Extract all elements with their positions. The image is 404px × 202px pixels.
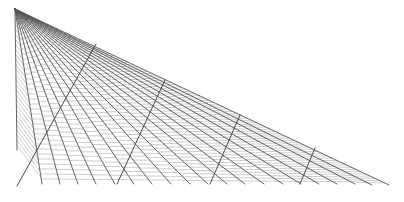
ray-fan-svg bbox=[0, 0, 404, 202]
ladder-rung bbox=[17, 135, 39, 165]
ladder-rung bbox=[16, 110, 34, 134]
fan-rays bbox=[15, 9, 389, 185]
ladder-rung bbox=[17, 140, 40, 172]
ladder-rung bbox=[16, 100, 32, 122]
ray-fan-diagram bbox=[0, 0, 404, 202]
fan-ray bbox=[15, 9, 389, 185]
ladder-rung bbox=[17, 115, 36, 141]
fan-ray bbox=[15, 9, 264, 184]
fan-ray bbox=[15, 9, 245, 184]
ladder-rung bbox=[16, 105, 33, 128]
